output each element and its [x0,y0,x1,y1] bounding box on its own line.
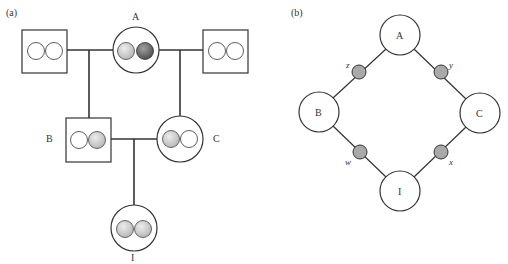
node-a: A [380,15,420,55]
individual-left-father [22,30,67,73]
svg-text:y: y [448,60,453,70]
allele-empty-icon [181,131,198,148]
node-i: I [380,171,420,211]
allele-empty-icon [28,43,45,60]
individual-c: C [157,116,220,162]
individual-a: A [113,11,159,73]
edge-node-w: w [345,145,367,167]
pedigree-figure: (a) A B [0,0,508,264]
allele-empty-icon [46,43,63,60]
allele-light-icon [163,131,180,148]
allele-light-icon [89,132,106,149]
edge-node-z: z [345,60,366,79]
individual-i: I [111,205,157,263]
edge-node-x: x [434,145,453,167]
svg-text:C: C [476,108,483,119]
label-a: A [132,11,140,22]
individual-right-father [203,30,248,73]
node-c: C [460,93,500,133]
svg-text:z: z [345,60,350,70]
edge-node-y: y [434,60,453,79]
svg-text:x: x [448,157,453,167]
allele-dark-icon [137,43,154,60]
allele-light-icon [117,221,134,238]
svg-text:I: I [398,186,401,197]
svg-text:w: w [345,157,351,167]
panel-b: (b) A B C I z [291,7,500,211]
node-b: B [299,92,339,132]
panel-a-label: (a) [6,7,17,19]
individual-b: B [46,118,111,162]
allele-empty-icon [227,43,244,60]
svg-text:A: A [396,30,404,41]
label-b: B [46,133,53,144]
allele-light-icon [135,221,152,238]
svg-text:B: B [315,107,322,118]
panel-a: (a) A B [6,7,248,263]
allele-light-icon [118,43,135,60]
panel-b-label: (b) [291,7,303,19]
label-i: I [131,252,134,263]
allele-empty-icon [71,132,88,149]
allele-empty-icon [209,43,226,60]
label-c: C [213,133,220,144]
